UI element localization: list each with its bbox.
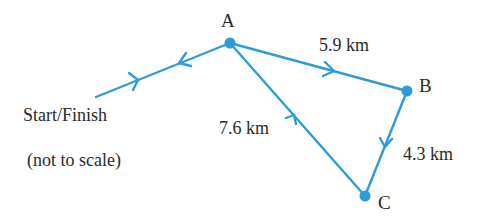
edge-start-a	[96, 43, 230, 97]
point-b-label: B	[419, 76, 432, 95]
point-b-marker	[402, 86, 413, 97]
arrow-c-to-a-icon	[286, 115, 296, 124]
distance-bc-label: 4.3 km	[403, 145, 453, 163]
distance-ca-label: 7.6 km	[219, 119, 269, 137]
point-c-marker	[360, 191, 371, 202]
point-a-marker	[225, 38, 236, 49]
point-a-label: A	[221, 11, 235, 30]
route-diagram: A B C 5.9 km 4.3 km 7.6 km Start/Finish …	[0, 0, 484, 217]
point-c-label: C	[378, 193, 391, 212]
distance-ab-label: 5.9 km	[319, 36, 369, 54]
edge-b-c	[365, 91, 407, 196]
start-finish-label: Start/Finish	[23, 106, 107, 124]
not-to-scale-note: (not to scale)	[27, 151, 121, 169]
